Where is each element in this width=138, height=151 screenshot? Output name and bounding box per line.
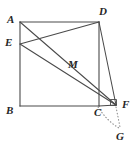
vertex-label-E: E [5,37,12,48]
vertex-label-C: C [94,107,101,118]
segment-ED [20,22,99,44]
vertex-label-M: M [68,59,78,70]
vertex-label-A: A [7,14,14,25]
figure-canvas [0,0,138,151]
segment-FG [116,107,120,127]
vertex-label-D: D [99,6,107,17]
square-abcd-outline [20,22,99,106]
vertex-label-B: B [6,105,13,116]
vertex-label-G: G [116,131,124,142]
vertex-label-F: F [122,99,129,110]
segment-EF [20,44,116,105]
geometry-figure: A E B C D M F G [0,0,138,151]
